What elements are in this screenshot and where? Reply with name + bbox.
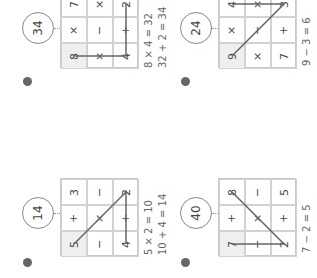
grid-cell[interactable]: 3	[271, 0, 297, 17]
grid-cell[interactable]: 2	[271, 231, 297, 257]
grid-cell[interactable]: 7	[271, 43, 297, 69]
puzzle-5: 14 3 − 2 + × + 5 − 4 5 × 2 = 10 10 + 4 =…	[0, 175, 160, 278]
number-grid: 7 × 2 × − + 8 × 4	[60, 0, 138, 68]
grid-cell[interactable]: −	[245, 179, 271, 205]
grid-cell[interactable]: 3	[61, 179, 87, 205]
equation-line: 7 − 2 = 5	[301, 204, 312, 253]
number-badge-icon	[181, 77, 190, 86]
grid-cell[interactable]: −	[87, 179, 113, 205]
grid-cell[interactable]: +	[219, 205, 245, 231]
number-badge-icon	[23, 258, 32, 267]
target-number: 40	[180, 197, 212, 229]
grid-cell[interactable]: +	[271, 17, 297, 43]
equation-line: 5 × 2 = 10	[143, 200, 154, 255]
target-number: 34	[22, 12, 54, 44]
grid-cell[interactable]: ×	[87, 0, 113, 17]
puzzle-4: 34 7 × 2 × − + 8 × 4 8 × 4 = 32 32 + 2 =…	[0, 0, 160, 140]
grid-cell-start[interactable]: 7	[219, 231, 245, 257]
puzzle-6: 24 4 × 3 × − + 9 × 7 9 − 3 = 6	[158, 0, 317, 140]
number-grid: 8 − 5 + × + 7 − 2	[218, 178, 296, 256]
grid-cell[interactable]: −	[245, 17, 271, 43]
grid-cell[interactable]: ×	[245, 0, 271, 17]
grid-cell-start[interactable]: 5	[61, 231, 87, 257]
target-number: 14	[22, 197, 54, 229]
grid-cell-start[interactable]: 8	[61, 43, 87, 69]
grid-cell[interactable]: 2	[113, 0, 139, 17]
grid-cell[interactable]: 4	[113, 43, 139, 69]
grid-cell[interactable]: −	[245, 231, 271, 257]
grid-cell[interactable]: ×	[87, 205, 113, 231]
grid-cell-start[interactable]: 9	[219, 43, 245, 69]
grid-cell[interactable]: 5	[271, 179, 297, 205]
grid-cell[interactable]: ×	[61, 17, 87, 43]
grid-cell[interactable]: +	[113, 205, 139, 231]
number-grid: 3 − 2 + × + 5 − 4	[60, 178, 138, 256]
grid-cell[interactable]: ×	[219, 17, 245, 43]
grid-cell[interactable]: +	[61, 205, 87, 231]
number-badge-icon	[181, 258, 190, 267]
grid-cell[interactable]: 8	[219, 179, 245, 205]
grid-cell[interactable]: ×	[87, 43, 113, 69]
number-grid: 4 × 3 × − + 9 × 7	[218, 0, 296, 68]
grid-cell[interactable]: +	[113, 17, 139, 43]
grid-cell[interactable]: +	[271, 205, 297, 231]
equation-line: 9 − 3 = 6	[301, 17, 312, 66]
grid-cell[interactable]: 7	[61, 0, 87, 17]
grid-cell[interactable]: ×	[245, 205, 271, 231]
grid-cell[interactable]: ×	[245, 43, 271, 69]
equation-line: 8 × 4 = 32	[143, 13, 154, 68]
grid-cell[interactable]: 4	[219, 0, 245, 17]
grid-cell[interactable]: −	[87, 231, 113, 257]
grid-cell[interactable]: 4	[113, 231, 139, 257]
target-number: 24	[180, 12, 212, 44]
number-badge-icon	[23, 77, 32, 86]
puzzle-7: 40 8 − 5 + × + 7 − 2 7 − 2 = 5	[158, 175, 317, 278]
grid-cell[interactable]: 2	[113, 179, 139, 205]
grid-cell[interactable]: −	[87, 17, 113, 43]
